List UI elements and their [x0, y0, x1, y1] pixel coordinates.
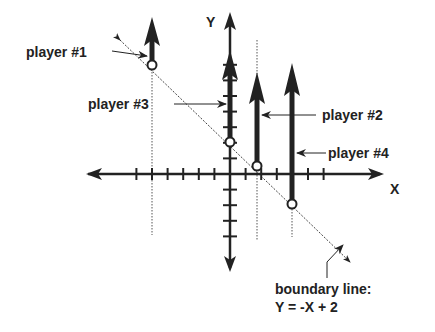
player-1-point	[148, 61, 157, 70]
player-4-label: player #4	[328, 145, 389, 161]
boundary-callout-arrow	[327, 245, 343, 278]
boundary-label: boundary line:	[275, 281, 371, 297]
player-1-label: player #1	[26, 44, 87, 60]
boundary-equation: Y = -X + 2	[275, 299, 338, 315]
player-4-point	[288, 200, 297, 209]
player-3-label: player #3	[88, 96, 149, 112]
player-2-point	[253, 162, 262, 171]
player-4-vector	[284, 63, 300, 202]
y-axis-label: Y	[206, 14, 216, 30]
player-3-point	[226, 138, 235, 147]
player-2-vector	[249, 72, 265, 165]
player-1-vector	[144, 17, 160, 64]
player-2-label: player #2	[322, 107, 383, 123]
coordinate-diagram: Y X player #1 player #3 player #2 player…	[0, 0, 435, 332]
x-axis-label: X	[390, 181, 400, 197]
player-1-callout-arrow	[112, 51, 147, 56]
